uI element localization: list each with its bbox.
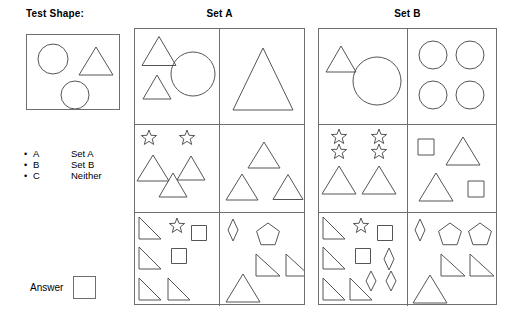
set-b-cell-r3c1 [319, 213, 408, 306]
cell-canvas [408, 29, 497, 125]
shape-right-triangle [139, 217, 161, 239]
shape-triangle [177, 156, 205, 180]
shape-pentagon [256, 223, 279, 245]
cell-canvas [220, 29, 305, 125]
legend-key-b: B [33, 159, 71, 170]
shape-triangle [226, 274, 260, 302]
shape-triangle [413, 275, 447, 303]
legend: • A Set A • B Set B • C Neither [24, 148, 102, 181]
cell-canvas [135, 213, 220, 306]
shape-right-triangle [350, 278, 372, 300]
shape-star [179, 130, 194, 144]
legend-bullet-icon: • [24, 160, 33, 171]
shape-right-triangle [323, 278, 345, 300]
shape-diamond [384, 248, 394, 270]
shape-triangle [362, 166, 396, 194]
cell-canvas [319, 125, 408, 213]
shape-star [371, 129, 386, 143]
shape-triangle [419, 173, 453, 201]
legend-bullet-icon: • [24, 171, 33, 182]
shape-right-triangle [323, 247, 345, 269]
set-b-cell-r2c1 [319, 125, 408, 213]
set-a-cell-r1c1 [135, 29, 220, 125]
legend-item-a: • A Set A [24, 148, 102, 159]
shape-circle [456, 41, 484, 69]
shape-triangle [273, 175, 303, 200]
shape-circle [61, 81, 89, 109]
shape-square [356, 249, 371, 264]
cell-canvas [220, 213, 305, 306]
shape-right-triangle [323, 217, 345, 239]
shape-square [172, 249, 187, 264]
cell-canvas [135, 125, 220, 213]
set-b-cell-r1c1 [319, 29, 408, 125]
set-a-cell-r3c1 [135, 213, 220, 306]
shape-diamond [386, 271, 396, 291]
shape-right-triangle [256, 254, 280, 276]
shape-right-triangle [286, 254, 305, 276]
cell-canvas [408, 125, 497, 213]
set-b-grid [318, 28, 497, 305]
shape-circle [38, 44, 68, 74]
legend-key-a: A [33, 148, 71, 159]
cell-canvas [319, 213, 408, 306]
answer-label: Answer [30, 282, 63, 293]
shape-triangle [248, 142, 280, 168]
shape-square [192, 226, 207, 241]
shape-triangle [322, 166, 356, 194]
shape-triangle [233, 48, 293, 110]
set-a-cell-r1c2 [220, 29, 305, 125]
legend-value-b: Set B [71, 159, 94, 170]
shape-right-triangle [168, 278, 190, 300]
legend-value-c: Neither [71, 170, 102, 181]
shape-circle [353, 57, 401, 105]
cell-canvas [135, 29, 220, 125]
test-shape-box [26, 34, 120, 110]
shape-right-triangle [139, 278, 161, 300]
legend-item-b: • B Set B [24, 159, 102, 170]
set-a-cell-r2c1 [135, 125, 220, 213]
set-a-title: Set A [134, 8, 305, 19]
legend-key-c: C [33, 170, 71, 181]
shape-square [418, 139, 434, 155]
shape-star [141, 130, 156, 144]
set-b-cell-r1c2 [408, 29, 497, 125]
shape-star [371, 144, 386, 158]
shape-diamond [415, 219, 425, 241]
set-a-cell-r2c2 [220, 125, 305, 213]
answer-row: Answer [30, 276, 96, 299]
shape-square [468, 181, 484, 197]
set-b-cell-r2c2 [408, 125, 497, 213]
shape-circle [419, 41, 447, 69]
answer-input-box[interactable] [73, 276, 96, 299]
shape-star [331, 129, 346, 143]
shape-pentagon [468, 223, 491, 245]
shape-star [169, 218, 184, 232]
legend-item-c: • C Neither [24, 170, 102, 181]
set-a-cell-r3c2 [220, 213, 305, 306]
shape-triangle [142, 37, 176, 66]
shape-square [378, 226, 393, 241]
legend-value-a: Set A [71, 148, 94, 159]
set-a-grid [134, 28, 305, 305]
shape-circle [171, 52, 215, 96]
cell-canvas [220, 125, 305, 213]
shape-triangle [226, 174, 258, 200]
shape-right-triangle [139, 247, 161, 269]
shape-circle [419, 81, 447, 109]
cell-canvas [319, 29, 408, 125]
shape-diamond [228, 219, 238, 241]
shape-diamond [366, 271, 376, 291]
set-b-cell-r3c2 [408, 213, 497, 306]
shape-triangle [159, 173, 187, 197]
shape-circle [456, 81, 484, 109]
shape-triangle [137, 155, 169, 181]
cell-canvas [408, 213, 497, 306]
legend-bullet-icon: • [24, 149, 33, 160]
shape-triangle [446, 137, 480, 165]
shape-star [331, 144, 346, 158]
shape-triangle [326, 46, 356, 72]
test-shape-canvas [27, 35, 119, 109]
shape-star [353, 218, 368, 232]
test-shape-title: Test Shape: [26, 8, 84, 19]
